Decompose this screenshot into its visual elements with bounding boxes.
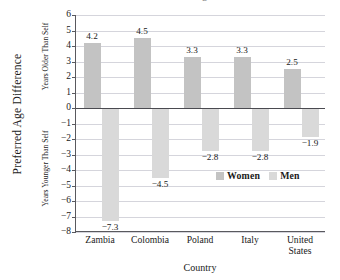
y-tick-label: 1	[66, 88, 71, 98]
y-axis-upper-label: Years Older Than Self	[41, 9, 50, 105]
zero-baseline	[76, 108, 325, 109]
y-axis-title: Preferred Age Difference	[11, 39, 23, 189]
chart-legend: WomenMen	[216, 170, 305, 181]
bar-women[interactable]	[134, 38, 151, 108]
bar-women[interactable]	[84, 43, 101, 108]
y-tick-mark	[72, 186, 76, 187]
bar-men[interactable]	[102, 108, 119, 221]
legend-swatch-icon	[216, 172, 224, 180]
bar-value-women: 4.5	[125, 27, 160, 36]
x-axis-label-italy: Italy	[225, 235, 275, 246]
y-tick-mark	[72, 170, 76, 171]
legend-label: Men	[280, 170, 300, 181]
x-axis-label-poland: Poland	[175, 235, 225, 246]
bar-men[interactable]	[252, 108, 269, 151]
y-tick-label: −1	[61, 119, 71, 129]
y-tick-label: −7	[61, 212, 71, 222]
bar-value-men: −2.8	[191, 153, 230, 162]
x-axis-label-zambia: Zambia	[75, 235, 125, 246]
y-tick-label: −4	[61, 165, 71, 175]
bar-value-men: −7.3	[91, 223, 130, 232]
y-tick-mark	[72, 217, 76, 218]
y-tick-label: 6	[66, 10, 71, 20]
y-tick-mark	[72, 62, 76, 63]
y-tick-label: −5	[61, 181, 71, 191]
y-tick-label: 0	[66, 103, 71, 113]
y-tick-label: −2	[61, 134, 71, 144]
y-tick-label: 3	[66, 57, 71, 67]
chart-figure: Preferred Age Difference Preferred Age D…	[0, 0, 340, 280]
y-tick-mark	[72, 155, 76, 156]
legend-entry-men[interactable]: Men	[269, 170, 300, 181]
y-tick-label: −3	[61, 150, 71, 160]
y-tick-label: −8	[61, 227, 71, 237]
y-tick-label: 2	[66, 72, 71, 82]
x-label-line: States	[275, 246, 325, 257]
y-tick-mark	[72, 77, 76, 78]
y-tick-mark	[72, 232, 76, 233]
bar-women[interactable]	[184, 57, 201, 108]
y-axis-lower-label: Years Younger Than Self	[41, 109, 50, 229]
bar-men[interactable]	[302, 108, 319, 137]
chart-title: Preferred Age Difference	[80, 0, 330, 1]
y-tick-mark	[72, 46, 76, 47]
y-tick-mark	[72, 124, 76, 125]
bar-men[interactable]	[202, 108, 219, 151]
bar-value-men: −2.8	[241, 153, 280, 162]
x-axis-label-colombia: Colombia	[125, 235, 175, 246]
x-label-line: United	[275, 235, 325, 246]
bar-value-women: 3.3	[175, 46, 210, 55]
legend-swatch-icon	[269, 172, 277, 180]
x-label-line: Zambia	[75, 235, 125, 246]
bar-men[interactable]	[152, 108, 169, 178]
bar-value-women: 4.2	[75, 32, 110, 41]
x-label-line: Italy	[225, 235, 275, 246]
y-tick-mark	[72, 93, 76, 94]
bar-value-men: −1.9	[291, 139, 330, 148]
gridline	[76, 31, 325, 32]
bar-value-men: −4.5	[141, 180, 180, 189]
x-axis-label-united-states: UnitedStates	[275, 235, 325, 256]
y-tick-label: 5	[66, 26, 71, 36]
x-label-line: Colombia	[125, 235, 175, 246]
y-tick-mark	[72, 15, 76, 16]
legend-entry-women[interactable]: Women	[216, 170, 260, 181]
y-tick-label: −6	[61, 196, 71, 206]
bar-value-women: 2.5	[275, 58, 310, 67]
bar-value-women: 3.3	[225, 46, 260, 55]
x-axis-title: Country	[75, 262, 325, 273]
bar-women[interactable]	[284, 69, 301, 108]
plot-area: 6543210−1−2−3−4−5−6−7−8 4.2−7.34.5−4.53.…	[75, 15, 325, 232]
legend-label: Women	[227, 170, 260, 181]
y-tick-mark	[72, 139, 76, 140]
y-tick-label: 4	[66, 41, 71, 51]
x-label-line: Poland	[175, 235, 225, 246]
gridline	[76, 15, 325, 16]
y-tick-mark	[72, 201, 76, 202]
bar-women[interactable]	[234, 57, 251, 108]
